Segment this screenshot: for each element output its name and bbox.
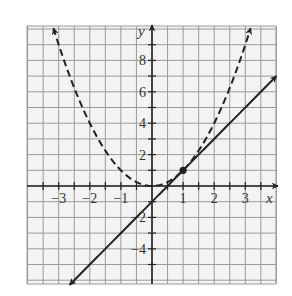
graph: −3−2−1123−4−22468 x y (0, 0, 292, 296)
x-tick-label: 2 (211, 191, 218, 206)
y-tick-label: 8 (139, 53, 146, 68)
y-tick-label: −4 (131, 242, 146, 257)
x-tick-label: −2 (82, 191, 97, 206)
x-tick-label: −3 (51, 191, 66, 206)
x-axis-label: x (265, 190, 273, 206)
y-axis-label: y (136, 23, 145, 39)
x-tick-label: −1 (113, 191, 128, 206)
y-tick-label: 2 (139, 148, 146, 163)
tangent-point (180, 167, 187, 174)
y-tick-label: −2 (131, 210, 146, 225)
x-tick-label: 1 (180, 191, 187, 206)
y-tick-label: 6 (139, 85, 146, 100)
y-tick-label: 4 (139, 116, 146, 131)
x-tick-label: 3 (242, 191, 249, 206)
